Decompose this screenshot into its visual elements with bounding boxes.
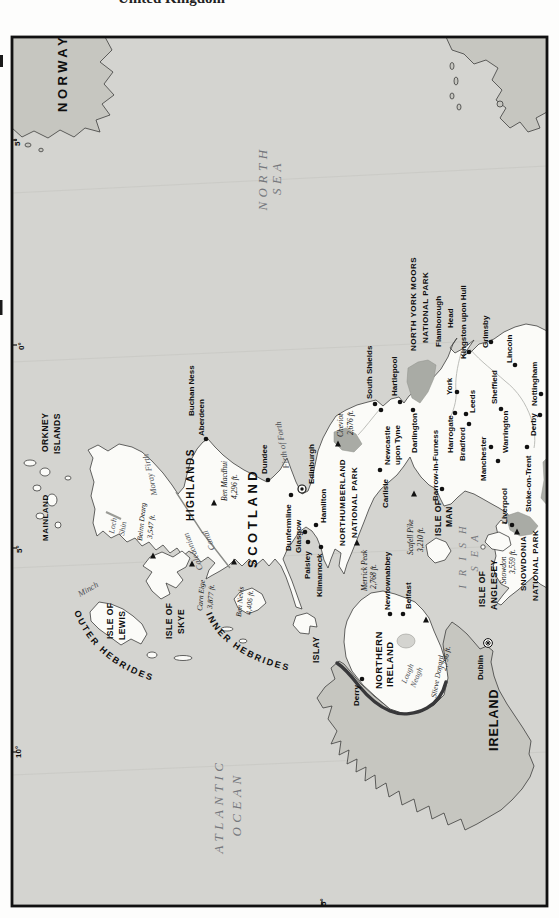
city-label-kingston-upon-hull: Kingston upon Hull	[459, 285, 468, 359]
label-isle-of-lewis: ISLE OF	[105, 602, 115, 639]
city-dot-glasgow	[303, 530, 308, 535]
mountain-name-snowdon: Snowdon	[499, 556, 508, 584]
city-dot-harrogate	[453, 411, 458, 416]
label-orkney-mainland: MAINLAND	[41, 494, 50, 541]
label-north-sea: NORTH	[255, 145, 270, 211]
city-label-carlisle: Carlisle	[381, 479, 390, 508]
city-label-belfast: Belfast	[404, 582, 413, 609]
label-buchan-ness: Buchan Ness	[187, 365, 196, 416]
city-label-harrogate: Harrogate	[446, 415, 455, 453]
city-label-derry: Derry	[352, 685, 361, 706]
city-label-sheffield: Sheffield	[490, 370, 499, 404]
city-dot-aberdeen	[204, 437, 209, 442]
city-dot-bradford	[467, 422, 472, 427]
continent-islet-5	[497, 101, 503, 107]
mountain-elevation-ben-macdhui: 4,296 ft.	[230, 474, 239, 499]
city-label-warrington: Warrington	[501, 411, 510, 453]
city-label-barrow-in-furness: Barrow-in-Furness	[431, 429, 440, 501]
print-mark-1	[0, 55, 3, 67]
label-north-sea-1: SEA	[269, 159, 284, 195]
city-label-kilmarnock: Kilmarnock	[315, 553, 324, 597]
city-dot-manchester	[489, 445, 494, 450]
city-label-derby: Derby	[529, 413, 538, 436]
lough-neagh-lake	[397, 634, 415, 648]
label-isle-of-lewis-1: LEWIS	[117, 611, 127, 640]
uist-islet-2	[174, 656, 192, 661]
mountain-elevation-merrick-peak: 2,768 ft.	[369, 564, 378, 589]
map-page: United Kingdom	[0, 0, 559, 918]
city-label-dunfermline: Dunfermline	[284, 504, 293, 551]
label-isle-of-anglesey: ISLE OF	[477, 570, 487, 607]
city-dot-barrow-in-furness	[440, 487, 445, 492]
mountain-elevation-snowdon: 3,559 ft.	[508, 549, 517, 575]
label-flamborough-head-1: Head	[446, 308, 455, 328]
label-isle-of-man: ISLE OF	[433, 499, 443, 536]
label-northumberland-national-park-1: NATIONAL PARK	[350, 467, 359, 538]
city-label-nottingham: Nottingham	[530, 362, 539, 406]
capital-dot-edinburgh	[300, 487, 303, 490]
mountain-name-merrick-peak: Merrick Peak	[360, 549, 369, 592]
uk-map-figure: United Kingdom	[0, 0, 559, 918]
city-dot-liverpool	[510, 523, 515, 528]
continent-islet-2	[454, 77, 458, 85]
norway-islet-2	[39, 148, 43, 152]
label-northern-ireland: NORTHERN	[373, 631, 384, 689]
label-isle-of-man-1: MAN	[444, 506, 454, 527]
label-lon-5w: 5°	[15, 545, 24, 553]
city-label-newtownabbey: Newtownabbey	[383, 551, 392, 610]
label-islay: ISLAY	[311, 636, 321, 663]
continent-islet-3	[450, 93, 454, 99]
page-title-cut: United Kingdom	[118, 0, 226, 6]
city-dot-derry	[360, 677, 365, 682]
orkney-islet-1	[24, 460, 36, 466]
norway-islet-1	[25, 143, 31, 147]
label-isle-of-skye-1: SKYE	[176, 609, 186, 634]
label-northumberland-national-park: NORTHUMBERLAND	[338, 459, 347, 546]
uist-islet-1	[147, 652, 157, 658]
city-dot-darlington	[411, 408, 416, 413]
city-label-york: York	[445, 377, 454, 395]
mountain-elevation-scafell-pike: 3,210 ft.	[416, 527, 425, 553]
city-label-edinburgh: Edinburgh	[307, 444, 316, 484]
city-dot-sheffield	[499, 407, 504, 412]
label-isle-of-skye: ISLE OF	[164, 602, 174, 639]
city-label-manchester: Manchester	[479, 437, 488, 481]
city-label-aberdeen: Aberdeen	[197, 399, 206, 436]
label-snowdonia-national-park: SNOWDONIA	[519, 536, 528, 591]
city-dot-stoke-on-trent	[525, 445, 530, 450]
city-dot-derby	[538, 413, 543, 418]
city-label-hamilton: Hamilton	[319, 489, 328, 523]
orkney-islet-7	[65, 476, 71, 480]
city-dot-dundee	[266, 478, 271, 483]
city-dot-belfast	[401, 612, 406, 617]
label-north-york-moors-national-park-1: NATIONAL PARK	[421, 272, 430, 343]
city-label-darlington: Darlington	[410, 413, 419, 453]
city-label-liverpool: Liverpool	[500, 488, 509, 524]
mountain-name-cheviot: Cheviot	[336, 413, 345, 437]
city-dot-dunfermline	[289, 493, 294, 498]
city-dot-nottingham	[539, 392, 544, 397]
continent-islet-1	[450, 63, 454, 70]
orkney-islet-6	[55, 522, 61, 528]
city-dot-york	[455, 390, 460, 395]
print-mark-2	[0, 300, 3, 315]
label-atlantic-ocean-1: OCEAN	[229, 771, 244, 836]
label-northern-ireland-1: IRELAND	[384, 641, 395, 687]
label-orkney-islands-1: ISLANDS	[52, 413, 62, 454]
city-label-leeds: Leeds	[468, 389, 477, 413]
label-scotland: SCOTLAND	[245, 468, 260, 568]
capital-star-dublin	[485, 640, 491, 646]
label-atlantic-ocean: ATLANTIC	[211, 759, 226, 855]
city-label-glasgow: Glasgow	[294, 519, 303, 553]
city-dot-hamilton	[314, 523, 319, 528]
city-label-stoke-on-trent: Stoke-on-Trent	[524, 455, 533, 512]
city-dot-paisley	[306, 540, 311, 545]
label-highlands: HIGHLANDS	[185, 448, 196, 521]
city-dot-newcastle-upon-tyne	[379, 408, 384, 413]
city-dot-newtownabbey	[388, 612, 393, 617]
city-dot-carlisle	[378, 468, 383, 473]
label-flamborough-head: Flamborough	[434, 296, 443, 347]
orkney-islet-2	[40, 468, 50, 476]
city-dot-south-shields	[373, 402, 378, 407]
city-label-bradford: Bradford	[458, 427, 467, 461]
